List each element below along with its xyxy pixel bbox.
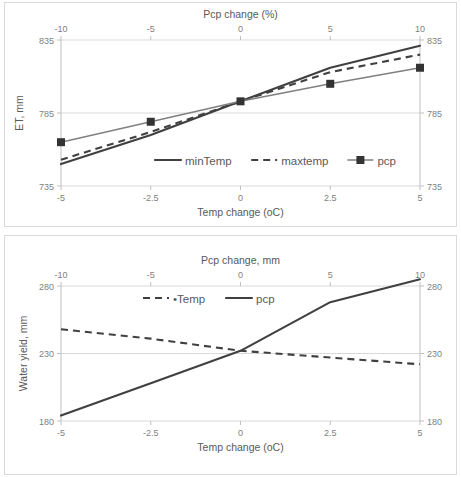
x-tick-label: 2.5 xyxy=(324,428,337,438)
x-tick-label: -2.5 xyxy=(143,428,159,438)
x2-tick-label: -5 xyxy=(147,270,155,280)
y-tick-label: 785 xyxy=(39,109,54,119)
water-yield-chart-svg: -5-2.502.55-10-50510180180230230280280Te… xyxy=(5,236,456,474)
x-tick-label: 0 xyxy=(238,428,243,438)
chart-legend: •Temppcp xyxy=(143,293,275,305)
x-tick-label: -5 xyxy=(57,193,65,203)
x-tick-label: 5 xyxy=(417,428,422,438)
water-yield-chart-panel: -5-2.502.55-10-50510180180230230280280Te… xyxy=(4,235,457,475)
et-chart-svg: -5-2.502.55-10-50510735735785785835835Te… xyxy=(5,3,456,226)
y-tick-label: 280 xyxy=(39,282,54,292)
series-line-maxtemp xyxy=(61,55,420,160)
y2-tick-label: 230 xyxy=(427,349,442,359)
water-yield-chart-canvas: -5-2.502.55-10-50510180180230230280280Te… xyxy=(5,236,456,474)
y2-tick-label: 280 xyxy=(427,282,442,292)
series-line-pcp xyxy=(61,279,420,415)
legend-label-mintemp: minTemp xyxy=(185,155,232,167)
series-marker-pcp xyxy=(147,118,155,126)
y-tick-label: 735 xyxy=(39,182,54,192)
x-tick-label: 2.5 xyxy=(324,193,337,203)
series-marker-pcp xyxy=(237,97,245,105)
legend-label-maxtemp: maxtemp xyxy=(281,155,328,167)
series-marker-pcp xyxy=(416,64,424,72)
series-line-temp xyxy=(61,329,420,364)
x2-tick-label: 5 xyxy=(328,24,333,34)
y2-tick-label: 835 xyxy=(427,36,442,46)
legend-label-pcp: pcp xyxy=(377,155,396,167)
x2-axis-title: Pcp change, mm xyxy=(201,254,280,266)
y-axis-title: ET, mm xyxy=(13,95,25,131)
chart-legend: minTempmaxtemppcp xyxy=(155,155,396,167)
x2-tick-label: 0 xyxy=(238,270,243,280)
x2-tick-label: 10 xyxy=(415,24,425,34)
x-tick-label: -5 xyxy=(57,428,65,438)
x2-tick-label: -10 xyxy=(54,24,67,34)
legend-label-pcp: pcp xyxy=(256,293,275,305)
et-chart-panel: -5-2.502.55-10-50510735735785785835835Te… xyxy=(4,2,457,227)
y2-tick-label: 735 xyxy=(427,182,442,192)
y2-tick-label: 785 xyxy=(427,109,442,119)
x-tick-label: 5 xyxy=(417,193,422,203)
series-marker-pcp xyxy=(57,138,65,146)
x2-tick-label: 0 xyxy=(238,24,243,34)
x-axis-title: Temp change (oC) xyxy=(197,441,283,453)
x2-tick-label: -10 xyxy=(54,270,67,280)
x2-tick-label: -5 xyxy=(147,24,155,34)
y-tick-label: 180 xyxy=(39,417,54,427)
series-marker-pcp xyxy=(326,80,334,88)
x-tick-label: 0 xyxy=(238,193,243,203)
x2-axis-title: Pcp change (%) xyxy=(203,8,278,20)
y-axis-title: Water yield, mm xyxy=(17,316,29,392)
x-tick-label: -2.5 xyxy=(143,193,159,203)
y-tick-label: 835 xyxy=(39,36,54,46)
legend-marker-pcp xyxy=(356,156,364,164)
legend-label-temp: •Temp xyxy=(173,293,205,305)
x2-tick-label: 5 xyxy=(328,270,333,280)
x-axis-title: Temp change (oC) xyxy=(197,206,283,218)
et-chart-canvas: -5-2.502.55-10-50510735735785785835835Te… xyxy=(5,3,456,226)
y2-tick-label: 180 xyxy=(427,417,442,427)
y-tick-label: 230 xyxy=(39,349,54,359)
